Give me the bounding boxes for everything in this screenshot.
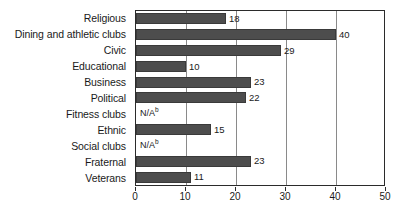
not-available-label: N/Ab [140,141,159,150]
bar-value-label: 23 [254,156,265,166]
bar [136,156,251,167]
value-axis: 01020304050 [135,187,385,207]
category-label-social-clubs: Social clubs [0,138,131,154]
not-available-label: N/Ab [140,109,159,118]
bar-row: 23 [136,74,384,90]
bar-row: 15 [136,122,384,138]
x-tick-label-30: 30 [279,192,290,202]
bar-value-label: 40 [339,30,350,40]
bar-row: 10 [136,58,384,74]
bar-row: 11 [136,169,384,185]
bar [136,29,336,40]
x-tick-label-40: 40 [329,192,340,202]
footnote-marker: b [155,106,159,113]
category-label-dining-and-athletic-clubs: Dining and athletic clubs [0,26,131,42]
x-tick-label-20: 20 [229,192,240,202]
bar-row: N/Ab [136,106,384,122]
bar-row: 29 [136,43,384,59]
bar-value-label: 11 [194,172,204,182]
category-axis: Religious Dining and athletic clubs Civi… [0,10,131,186]
bar [136,45,281,56]
bar-chart: Religious Dining and athletic clubs Civi… [0,0,396,217]
category-label-civic: Civic [0,42,131,58]
category-label-veterans: Veterans [0,170,131,186]
category-label-business: Business [0,74,131,90]
bar-value-label: 15 [214,125,225,135]
category-label-fitness-clubs: Fitness clubs [0,106,131,122]
bar-row: 18 [136,11,384,27]
bar-value-label: 29 [284,46,295,56]
bar [136,172,191,183]
bar-row: 23 [136,153,384,169]
bar [136,92,246,103]
footnote-marker: b [155,138,159,145]
bar-row: 40 [136,27,384,43]
bars-layer: 184029102322N/Ab15N/Ab2311 [136,11,384,185]
bar-value-label: 23 [254,77,265,87]
x-tick-label-0: 0 [132,192,138,202]
bar [136,124,211,135]
category-label-ethnic: Ethnic [0,122,131,138]
bar [136,13,226,24]
bar-value-label: 10 [189,62,200,72]
bar [136,61,186,72]
bar-value-label: 18 [229,14,240,24]
plot-area: 184029102322N/Ab15N/Ab2311 [135,10,385,186]
x-tick-label-50: 50 [379,192,390,202]
bar [136,77,251,88]
bar-row: N/Ab [136,138,384,154]
category-label-political: Political [0,90,131,106]
category-label-religious: Religious [0,10,131,26]
bar-row: 22 [136,90,384,106]
x-tick-label-10: 10 [179,192,190,202]
category-label-fraternal: Fraternal [0,154,131,170]
category-label-educational: Educational [0,58,131,74]
bar-value-label: 22 [249,93,260,103]
